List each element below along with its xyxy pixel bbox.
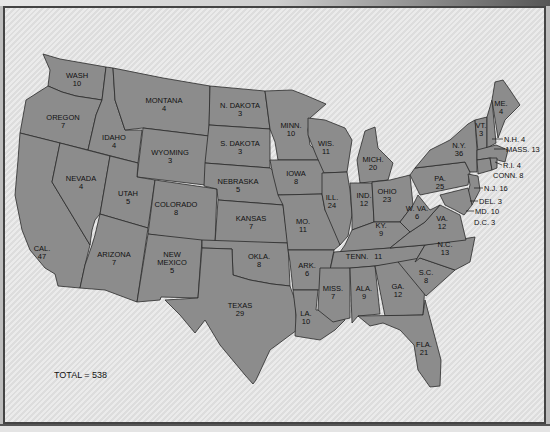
state-colorado xyxy=(148,180,217,244)
state-new-york xyxy=(415,120,477,172)
callout-dc: D.C. 3 xyxy=(474,218,495,227)
callout-mass: MASS. 13 xyxy=(506,145,540,154)
callout-ri: R.I. 4 xyxy=(503,161,521,170)
label-pa: PA.25 xyxy=(434,174,446,191)
callout-nj: N.J. 16 xyxy=(484,184,508,193)
state-connecticut xyxy=(477,158,492,174)
label-la: LA.10 xyxy=(300,309,311,326)
label-tenn: TENN.11 xyxy=(346,252,382,261)
total-electoral-votes: TOTAL = 538 xyxy=(54,370,107,380)
callout-nh: N.H. 4 xyxy=(504,135,525,144)
callout-conn: CONN. 8 xyxy=(493,171,523,180)
callout-del: DEL. 3 xyxy=(479,197,502,206)
callout-md: MD. 10 xyxy=(475,207,499,216)
bottom-frame-bar xyxy=(0,424,550,432)
us-electoral-map: WASH10 OREGON7 CAL.47 IDAHO4 NEVADA4 MON… xyxy=(0,0,550,432)
state-maine xyxy=(492,80,520,138)
label-va: VA.12 xyxy=(436,214,448,231)
